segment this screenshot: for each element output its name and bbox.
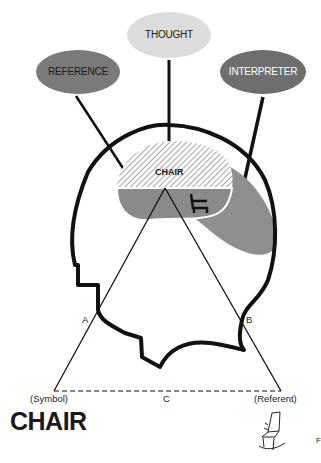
rocking-chair-icon xyxy=(259,412,285,450)
interpreter-label: INTERPRETER xyxy=(229,66,297,77)
corner-mark: F xyxy=(316,436,321,445)
reference-label: REFERENCE xyxy=(48,66,108,77)
thought-label: THOUGHT xyxy=(145,29,193,40)
referent-label: (Referent) xyxy=(254,393,297,404)
side-a-label: A xyxy=(82,314,88,325)
brain-word: CHAIR xyxy=(155,167,184,177)
symbol-word: CHAIR xyxy=(10,407,87,436)
side-c-label: C xyxy=(163,393,170,404)
brain-region xyxy=(116,141,233,220)
symbol-label: (Symbol) xyxy=(30,393,68,404)
side-b-label: B xyxy=(246,314,252,325)
